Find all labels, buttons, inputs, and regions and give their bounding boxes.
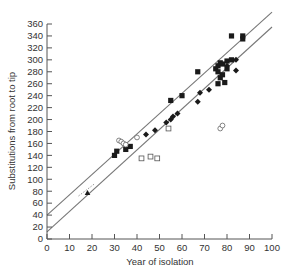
filled-square-marker xyxy=(229,33,234,38)
filled-square-marker xyxy=(123,147,128,152)
x-tick-label: 100 xyxy=(264,242,280,253)
filled-square-marker xyxy=(215,69,220,74)
y-tick-label: 200 xyxy=(27,114,43,125)
y-tick-label: 120 xyxy=(27,162,43,173)
filled-square-marker xyxy=(222,80,227,85)
filled-square-marker xyxy=(114,149,119,154)
x-axis-title: Year of isolation xyxy=(126,256,193,267)
open-square-marker xyxy=(166,126,171,131)
filled-square-marker xyxy=(168,98,173,103)
y-tick-label: 340 xyxy=(27,30,43,41)
x-tick-label: 80 xyxy=(222,242,233,253)
filled-diamond-marker xyxy=(143,131,149,137)
x-tick-label: 90 xyxy=(244,242,255,253)
y-tick-label: 60 xyxy=(32,197,43,208)
regression-lines xyxy=(47,12,272,232)
filled-diamond-marker xyxy=(233,68,239,74)
open-square-marker xyxy=(155,156,160,161)
filled-square-marker xyxy=(220,72,225,77)
x-tick-label: 40 xyxy=(132,242,143,253)
y-tick-label: 80 xyxy=(32,186,43,197)
open-circle-marker xyxy=(123,142,128,147)
y-tick-label: 320 xyxy=(27,42,43,53)
x-tick-label: 70 xyxy=(199,242,210,253)
y-tick-label: 260 xyxy=(27,78,43,89)
y-tick-label: 360 xyxy=(27,18,43,29)
x-tick-label: 60 xyxy=(177,242,188,253)
x-tick-label: 30 xyxy=(109,242,120,253)
upper-bound-line xyxy=(47,12,272,215)
scatter-chart: 0102030405060708090100 02040608010012014… xyxy=(0,0,292,277)
y-axis-title: Substitutions from root to tip xyxy=(6,72,17,190)
y-axis-ticks: 0204060801001201401601802002202402602803… xyxy=(27,18,52,244)
x-tick-label: 20 xyxy=(87,242,98,253)
y-tick-label: 20 xyxy=(32,221,43,232)
lower-bound-line xyxy=(47,27,272,232)
filled-square-marker xyxy=(240,33,245,38)
filled-diamond-marker xyxy=(152,127,158,133)
x-tick-label: 50 xyxy=(154,242,165,253)
y-tick-label: 100 xyxy=(27,174,43,185)
filled-square-marker xyxy=(215,81,220,86)
x-tick-label: 0 xyxy=(44,242,49,253)
filled-square-marker xyxy=(179,93,184,98)
y-tick-label: 40 xyxy=(32,209,43,220)
x-tick-label: 10 xyxy=(64,242,75,253)
y-tick-label: 0 xyxy=(38,233,43,244)
open-square-marker xyxy=(148,154,153,159)
y-tick-label: 300 xyxy=(27,54,43,65)
data-points xyxy=(79,33,246,196)
x-axis-ticks: 0102030405060708090100 xyxy=(44,234,280,253)
y-tick-label: 180 xyxy=(27,126,43,137)
axes xyxy=(47,24,272,239)
y-tick-label: 240 xyxy=(27,90,43,101)
open-circle-marker xyxy=(220,123,225,128)
filled-square-marker xyxy=(195,69,200,74)
y-tick-label: 280 xyxy=(27,66,43,77)
filled-diamond-marker xyxy=(195,99,201,105)
filled-diamond-marker xyxy=(206,87,212,93)
open-square-marker xyxy=(139,156,144,161)
y-tick-label: 140 xyxy=(27,150,43,161)
y-tick-label: 220 xyxy=(27,102,43,113)
open-circle-marker xyxy=(135,135,140,140)
y-tick-label: 160 xyxy=(27,138,43,149)
